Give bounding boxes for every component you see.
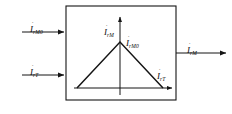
apex-subscript: rM0 [129, 43, 139, 49]
horizontal-axis-subscript: rT [160, 76, 165, 82]
dot-accent-icon: ˙ [189, 42, 191, 49]
output-subscript: rM [190, 50, 197, 56]
vertical-axis-label: ˙IrM [104, 22, 114, 38]
input-label-top: ˙IrM0 [30, 19, 43, 35]
input-subscript-top: rM0 [33, 29, 43, 35]
input-label-bottom: ˙IrT [30, 62, 38, 78]
vertical-axis-subscript: rM [107, 32, 114, 38]
dot-accent-icon: ˙ [106, 24, 108, 31]
apex-label: ˙IrM0 [126, 33, 139, 49]
horizontal-axis-label: ˙IrT [157, 66, 165, 82]
diagram-svg [0, 0, 232, 114]
dot-accent-icon: ˙ [32, 64, 34, 71]
output-label-right: ˙IrM [187, 40, 197, 56]
dot-accent-icon: ˙ [159, 68, 161, 75]
processing-block-rect [66, 6, 176, 100]
input-subscript-bottom: rT [33, 72, 38, 78]
dot-accent-icon: ˙ [128, 35, 130, 42]
diagram-canvas: ˙IrM0 ˙IrT ˙IrM ˙IrM ˙IrT ˙IrM0 [0, 0, 232, 114]
dot-accent-icon: ˙ [32, 21, 34, 28]
